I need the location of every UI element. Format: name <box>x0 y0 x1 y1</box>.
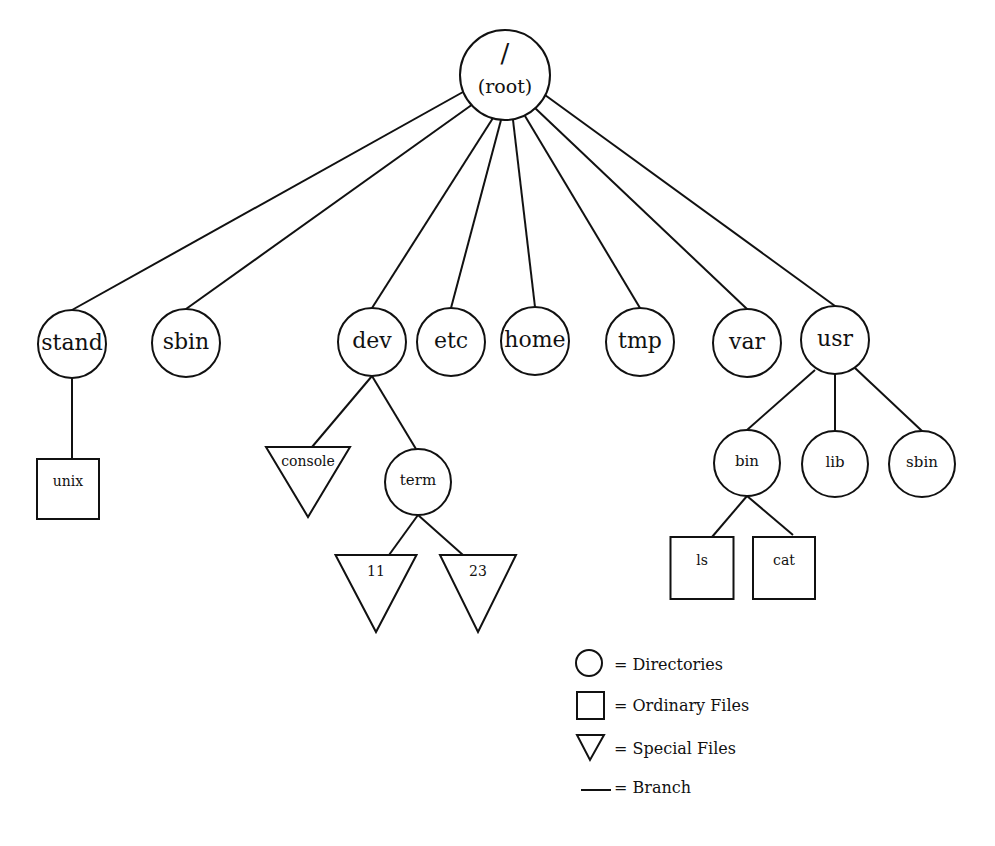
node-console: console <box>266 447 350 517</box>
node-label: home <box>504 327 565 352</box>
root-label: (root) <box>478 75 532 97</box>
file-square <box>671 537 734 599</box>
node-label: etc <box>434 328 468 353</box>
nodes: standsbindevetchometmpvarusrunixconsolet… <box>37 306 955 632</box>
node-label: 23 <box>469 563 487 579</box>
node-label: stand <box>41 330 103 355</box>
file-square <box>753 537 815 599</box>
node-label: ls <box>696 552 708 568</box>
legend-square-icon <box>577 692 604 719</box>
node-t11: 11 <box>336 555 417 632</box>
node-label: lib <box>825 453 844 471</box>
branch-line <box>513 120 535 307</box>
root-directory-node: / (root) <box>460 30 550 120</box>
branch-line <box>535 108 747 309</box>
legend-directories: = Directories <box>614 655 723 674</box>
legend-special-files: = Special Files <box>614 739 736 758</box>
node-label: bin <box>735 452 759 470</box>
branch-line <box>72 92 463 310</box>
root-slash: / <box>501 38 510 68</box>
branch-line <box>418 515 463 555</box>
node-var: var <box>713 309 781 377</box>
node-label: sbin <box>906 453 938 471</box>
file-square <box>37 459 99 519</box>
node-tmp: tmp <box>606 308 674 376</box>
node-usr: usr <box>801 306 869 374</box>
legend-branch: = Branch <box>614 778 691 797</box>
branch-line <box>372 376 416 449</box>
node-lib: lib <box>802 431 868 497</box>
node-label: console <box>281 453 335 469</box>
branch-line <box>712 496 747 537</box>
node-sbin: sbin <box>152 309 220 377</box>
node-home: home <box>501 307 569 375</box>
branch-line <box>747 496 793 535</box>
node-unix: unix <box>37 459 99 519</box>
branch-line <box>855 368 922 431</box>
node-label: usr <box>817 326 853 351</box>
legend-circle-icon <box>576 650 602 676</box>
node-usbin: sbin <box>889 431 955 497</box>
branch-line <box>747 370 815 430</box>
branch-line <box>186 104 473 309</box>
node-label: sbin <box>163 329 210 354</box>
branch-line <box>389 515 418 555</box>
branch-line <box>525 116 640 308</box>
node-ls: ls <box>671 537 734 599</box>
node-label: tmp <box>618 328 662 353</box>
legend: = Directories = Ordinary Files = Special… <box>576 650 749 797</box>
legend-triangle-icon <box>577 735 604 760</box>
node-label: 11 <box>367 563 385 579</box>
branch-line <box>451 120 501 308</box>
node-bin: bin <box>714 430 780 496</box>
node-etc: etc <box>417 308 485 376</box>
node-t23: 23 <box>440 555 516 632</box>
node-label: dev <box>352 328 392 353</box>
node-label: unix <box>53 473 84 489</box>
branch-line <box>372 118 493 308</box>
node-label: term <box>400 471 436 489</box>
node-label: var <box>728 329 766 354</box>
branch-line <box>545 95 835 306</box>
node-stand: stand <box>38 310 106 378</box>
node-term: term <box>385 449 451 515</box>
legend-ordinary-files: = Ordinary Files <box>614 696 749 715</box>
branch-line <box>312 376 372 447</box>
node-dev: dev <box>338 308 406 376</box>
file-system-tree-diagram: standsbindevetchometmpvarusrunixconsolet… <box>0 0 995 846</box>
node-label: cat <box>773 552 795 568</box>
node-cat: cat <box>753 537 815 599</box>
